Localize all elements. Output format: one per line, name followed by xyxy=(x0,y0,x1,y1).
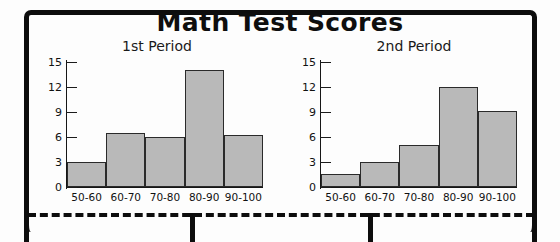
plot-area-1st-period: 03691215 50-6060-7070-8080-9090-100 xyxy=(66,62,262,187)
bar-group-2nd-period xyxy=(321,62,517,187)
bar xyxy=(106,133,145,187)
bar xyxy=(224,135,263,187)
bar xyxy=(145,137,184,187)
x-axis-labels-1: 50-6060-7070-8080-9090-100 xyxy=(67,188,263,206)
dashed-separator xyxy=(28,213,534,217)
x-axis-labels-2: 50-6060-7070-8080-9090-100 xyxy=(321,188,517,206)
x-axis-label: 50-60 xyxy=(321,191,360,203)
x-axis-label: 50-60 xyxy=(67,191,106,203)
x-axis-label: 90-100 xyxy=(478,191,517,203)
x-axis-label: 80-90 xyxy=(439,191,478,203)
column-divider-tick-2 xyxy=(368,213,373,242)
x-axis-label: 70-80 xyxy=(145,191,184,203)
y-tick-label: 12 xyxy=(302,81,316,94)
page-title: Math Test Scores xyxy=(0,8,560,37)
bar xyxy=(67,162,106,187)
bar xyxy=(478,111,517,187)
chart-panel-1st-period: 1st Period 03691215 50-6060-7070-8080-90… xyxy=(28,38,278,220)
y-tick-label: 12 xyxy=(48,81,62,94)
y-tick-label: 9 xyxy=(309,106,316,119)
y-tick-label: 15 xyxy=(302,56,316,69)
x-axis-label: 70-80 xyxy=(399,191,438,203)
x-axis-label: 80-90 xyxy=(185,191,224,203)
bar xyxy=(360,162,399,187)
bar xyxy=(185,70,224,187)
bar xyxy=(439,87,478,187)
y-tick-label: 3 xyxy=(309,156,316,169)
y-tick-label: 9 xyxy=(55,106,62,119)
chart-title-2nd-period: 2nd Period xyxy=(282,38,530,54)
chart-panel-2nd-period: 2nd Period 03691215 50-6060-7070-8080-90… xyxy=(282,38,530,220)
y-tick-label: 0 xyxy=(55,181,62,194)
chart-title-1st-period: 1st Period xyxy=(28,38,278,54)
y-tick-label: 6 xyxy=(55,131,62,144)
plot-area-2nd-period: 03691215 50-6060-7070-8080-9090-100 xyxy=(320,62,516,187)
frame-edge-bottom-right xyxy=(532,213,537,242)
bar xyxy=(321,174,360,187)
y-tick-label: 3 xyxy=(55,156,62,169)
y-tick-label: 0 xyxy=(309,181,316,194)
x-axis-label: 60-70 xyxy=(106,191,145,203)
bar xyxy=(399,145,438,187)
frame-edge-bottom-left xyxy=(24,213,29,242)
bar-group-1st-period xyxy=(67,62,263,187)
y-tick-label: 15 xyxy=(48,56,62,69)
x-axis-label: 90-100 xyxy=(224,191,263,203)
y-tick-label: 6 xyxy=(309,131,316,144)
worksheet-page: Math Test Scores 1st Period 03691215 50-… xyxy=(0,0,560,242)
column-divider-tick-1 xyxy=(190,213,195,242)
x-axis-label: 60-70 xyxy=(360,191,399,203)
